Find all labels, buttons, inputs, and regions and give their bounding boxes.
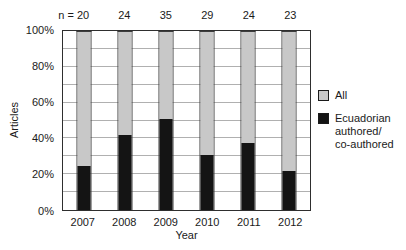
- gridline: [63, 155, 310, 156]
- n-labels-row: n = 202435292423: [62, 8, 311, 22]
- bar-segment-ecuadorian: [201, 155, 214, 210]
- legend-label-line: authored/: [335, 125, 394, 138]
- legend-label-line: Ecuadorian: [335, 112, 394, 125]
- bar-segment-all: [201, 32, 214, 155]
- gridline: [63, 120, 310, 121]
- y-tick-label: 0%: [0, 205, 58, 218]
- bar-2009: [158, 31, 173, 210]
- x-tick-labels: 200720082009201020112012: [62, 216, 311, 229]
- bar-segment-all: [283, 32, 296, 171]
- bar-segment-all: [77, 32, 90, 166]
- y-tick-label: 20%: [0, 168, 58, 181]
- bar-segment-ecuadorian: [159, 119, 172, 210]
- x-tick-label: 2011: [237, 216, 261, 229]
- n-label: 24: [118, 8, 130, 22]
- bar-segment-all: [242, 32, 255, 143]
- bar-segment-ecuadorian: [77, 166, 90, 211]
- chart-figure: n = 202435292423 Articles 0%20%40%60%80%…: [0, 0, 406, 250]
- n-label: 29: [201, 8, 213, 22]
- gridline: [63, 137, 310, 138]
- legend-item: All: [318, 89, 394, 102]
- y-tick-label: 40%: [0, 132, 58, 145]
- bar-2010: [200, 31, 215, 210]
- bar-segment-all: [118, 32, 131, 135]
- y-tick-label: 80%: [0, 60, 58, 73]
- n-label: n = 20: [58, 8, 89, 22]
- gridline: [63, 191, 310, 192]
- bar-segment-ecuadorian: [283, 171, 296, 210]
- x-axis-title: Year: [62, 229, 311, 242]
- legend-swatch: [318, 113, 329, 124]
- bar-segment-all: [159, 32, 172, 119]
- n-label: 35: [160, 8, 172, 22]
- bar-2011: [241, 31, 256, 210]
- plot-area: [62, 30, 311, 211]
- gridline: [63, 102, 310, 103]
- bar-2012: [282, 31, 297, 210]
- gridline: [63, 173, 310, 174]
- legend-label: Ecuadorianauthored/co-authored: [335, 112, 394, 151]
- gridline: [63, 66, 310, 67]
- legend-label-line: co-authored: [335, 138, 394, 151]
- x-tick-label: 2009: [154, 216, 178, 229]
- gridline: [63, 48, 310, 49]
- legend-label-line: All: [335, 89, 347, 102]
- bar-2007: [76, 31, 91, 210]
- bar-2008: [117, 31, 132, 210]
- bar-segment-ecuadorian: [242, 143, 255, 210]
- x-tick-label: 2007: [71, 216, 95, 229]
- x-tick-label: 2012: [278, 216, 302, 229]
- gridline: [63, 84, 310, 85]
- y-tick-label: 100%: [0, 24, 58, 37]
- n-label: 24: [243, 8, 255, 22]
- bar-segment-ecuadorian: [118, 135, 131, 210]
- legend: AllEcuadorianauthored/co-authored: [318, 89, 394, 161]
- legend-item: Ecuadorianauthored/co-authored: [318, 112, 394, 151]
- legend-label: All: [335, 89, 347, 102]
- x-tick-label: 2010: [195, 216, 219, 229]
- n-label: 23: [284, 8, 296, 22]
- legend-swatch: [318, 90, 329, 101]
- x-tick-label: 2008: [112, 216, 136, 229]
- y-tick-label: 60%: [0, 96, 58, 109]
